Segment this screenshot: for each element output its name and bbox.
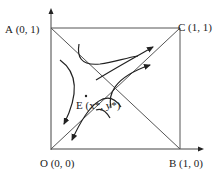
label-point-o: O (0, 0) [40,158,75,169]
trajectories [60,44,153,140]
label-point-c: C (1, 1) [178,22,212,33]
label-point-e: E (x*, y*) [76,100,120,111]
saddle-point-e [85,95,87,97]
label-point-b: B (1, 0) [169,158,203,169]
trajectory-left-arrow [60,60,74,124]
x-axis-arrow-icon [198,147,204,152]
y-axis-arrow-icon [49,8,54,14]
label-point-a: A (0, 1) [5,24,40,35]
